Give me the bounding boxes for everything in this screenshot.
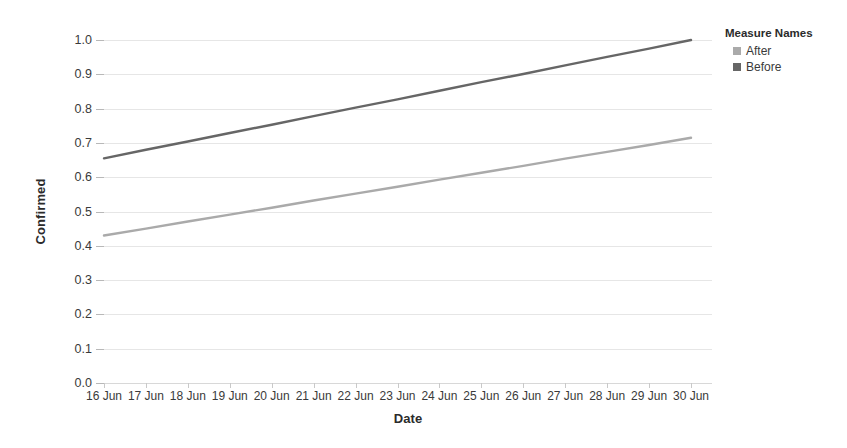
y-axis-tick-label: 0.2 xyxy=(28,308,92,320)
line-chart: Confirmed 1.00.90.80.70.60.50.40.30.20.1… xyxy=(0,0,847,448)
gridline xyxy=(104,383,712,384)
x-axis-tick-label: 21 Jun xyxy=(290,389,338,403)
y-axis-tick-label: 1.0 xyxy=(28,34,92,46)
x-axis-tick-label: 18 Jun xyxy=(164,389,212,403)
x-axis-title: Date xyxy=(104,409,712,429)
series-line-before xyxy=(104,40,691,158)
y-axis-tick-label: 0.1 xyxy=(28,343,92,355)
x-axis-tick xyxy=(607,383,608,388)
y-axis-tick xyxy=(96,177,104,178)
x-axis-tick-label: 26 Jun xyxy=(499,389,547,403)
x-axis-tick xyxy=(272,383,273,388)
y-axis-tick xyxy=(96,143,104,144)
legend-item-label: After xyxy=(746,44,771,58)
y-axis-tick xyxy=(96,314,104,315)
x-axis-tick xyxy=(188,383,189,388)
plot-area xyxy=(104,40,712,383)
legend-item-label: Before xyxy=(746,60,781,74)
y-axis-tick xyxy=(96,383,104,384)
x-axis-tick xyxy=(439,383,440,388)
y-axis-tick-label: 0.8 xyxy=(28,103,92,115)
x-axis-tick xyxy=(314,383,315,388)
legend-title: Measure Names xyxy=(725,27,837,40)
series-line-after xyxy=(104,138,691,236)
y-axis-tick-label: 0.6 xyxy=(28,171,92,183)
y-axis-tick xyxy=(96,74,104,75)
y-axis-tick-labels: 1.00.90.80.70.60.50.40.30.20.10.0 xyxy=(24,0,92,448)
y-axis-tick xyxy=(96,109,104,110)
x-axis-tick xyxy=(104,383,105,388)
legend-swatch-icon xyxy=(733,47,741,55)
legend-items: AfterBefore xyxy=(725,44,837,74)
x-axis-tick xyxy=(146,383,147,388)
legend-swatch-icon xyxy=(733,63,741,71)
legend-item-after[interactable]: After xyxy=(733,44,837,58)
x-axis-tick-label: 24 Jun xyxy=(415,389,463,403)
y-axis-tick xyxy=(96,349,104,350)
x-axis-tick-label: 23 Jun xyxy=(374,389,422,403)
x-axis-tick-label: 28 Jun xyxy=(583,389,631,403)
series-lines xyxy=(104,40,712,383)
x-axis-tick-label: 17 Jun xyxy=(122,389,170,403)
x-axis-tick-label: 29 Jun xyxy=(625,389,673,403)
y-axis-tick xyxy=(96,40,104,41)
x-axis-tick-label: 22 Jun xyxy=(332,389,380,403)
x-axis-tick xyxy=(481,383,482,388)
y-axis-tick-label: 0.3 xyxy=(28,274,92,286)
x-axis-tick-label: 20 Jun xyxy=(248,389,296,403)
x-axis-tick-label: 27 Jun xyxy=(541,389,589,403)
y-axis-tick xyxy=(96,280,104,281)
y-axis-tick-label: 0.4 xyxy=(28,240,92,252)
x-axis-tick xyxy=(523,383,524,388)
y-axis-tick xyxy=(96,246,104,247)
y-axis-tick-label: 0.7 xyxy=(28,137,92,149)
x-axis-tick-label: 25 Jun xyxy=(457,389,505,403)
x-axis-tick xyxy=(398,383,399,388)
x-axis-tick-label: 19 Jun xyxy=(206,389,254,403)
legend-item-before[interactable]: Before xyxy=(733,60,837,74)
x-axis-tick xyxy=(230,383,231,388)
x-axis-tick xyxy=(691,383,692,388)
y-axis-tick-label: 0.9 xyxy=(28,68,92,80)
legend: Measure Names AfterBefore xyxy=(725,27,837,76)
x-axis-tick-label: 30 Jun xyxy=(667,389,715,403)
y-axis-tick-label: 0.0 xyxy=(28,377,92,389)
y-axis-tick xyxy=(96,212,104,213)
x-axis-tick xyxy=(565,383,566,388)
x-axis-tick xyxy=(649,383,650,388)
x-axis-tick xyxy=(356,383,357,388)
y-axis-tick-label: 0.5 xyxy=(28,206,92,218)
x-axis-tick-label: 16 Jun xyxy=(80,389,128,403)
